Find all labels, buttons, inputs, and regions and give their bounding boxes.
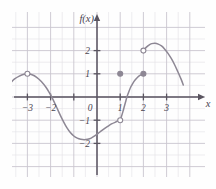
- x-tick-label-neg3: −3: [22, 103, 33, 113]
- y-tick-label-neg2: −2: [79, 139, 90, 149]
- x-tick-label-1: 1: [118, 103, 123, 113]
- filled-point-two-one: [141, 71, 146, 76]
- open-point-two-two: [141, 48, 146, 53]
- graph-canvas: −3−20123−2−112 f(x)x: [0, 0, 216, 189]
- open-point-left-peak: [25, 71, 30, 76]
- y-tick-label-2: 2: [85, 46, 90, 56]
- x-tick-label-2: 2: [141, 103, 146, 113]
- x-tick-label-neg2: −2: [45, 103, 56, 113]
- axes: [14, 14, 205, 175]
- y-tick-label-neg1: −1: [79, 116, 90, 126]
- y-axis-label: f(x): [79, 13, 94, 25]
- x-tick-label-3: 3: [163, 103, 169, 113]
- graph-figure: −3−20123−2−112 f(x)x: [0, 0, 216, 189]
- y-tick-label-1: 1: [85, 69, 90, 79]
- x-tick-label-0: 0: [88, 103, 93, 113]
- x-axis-label: x: [205, 98, 211, 109]
- grid-minor: [12, 12, 205, 177]
- open-point-one-neg-one: [118, 118, 123, 123]
- curve-right-arc: [143, 43, 183, 85]
- filled-point-isolated: [118, 71, 123, 76]
